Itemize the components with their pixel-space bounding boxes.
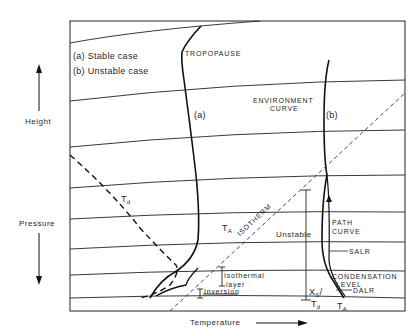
temperature-arrow-right-icon: [298, 320, 308, 326]
plot-frame: [70, 21, 405, 311]
dalr-label: DALR: [353, 287, 375, 294]
temperature-axis-label: Temperature: [190, 319, 240, 327]
environment-curve-b: [322, 60, 344, 298]
pressure-arrow-down-icon: [36, 276, 42, 285]
height-axis-label: Height: [25, 118, 51, 126]
pressure-axis-label: Pressure: [19, 220, 55, 228]
ta-label-a: TA: [222, 224, 232, 234]
unstable-label: Unstable: [276, 231, 312, 239]
tropopause-label: TROPOPAUSE: [185, 50, 241, 57]
environment-curve-a: [150, 26, 201, 298]
height-arrow-up-icon: [36, 64, 42, 73]
dewpoint-curve: [70, 155, 177, 298]
legend-stable: (a) Stable case: [73, 52, 138, 61]
curve-b-label: (b): [326, 111, 338, 120]
ta-bottom-label: TA: [337, 302, 347, 312]
salr-label: SALR: [349, 248, 371, 255]
isobar-lines: [70, 21, 405, 298]
environment-curve-label-1: ENVIRONMENT: [253, 97, 314, 104]
curve-a-label: (a): [194, 111, 206, 120]
dewpoint-label: Td: [121, 195, 130, 205]
inversion-label: Inversion: [204, 288, 240, 295]
isothermal-label-2: layer: [226, 281, 245, 288]
td-bottom-label: Td: [311, 300, 320, 310]
legend-unstable: (b) Unstable case: [73, 67, 149, 76]
path-curve-label-2: CURVE: [332, 228, 360, 235]
isothermal-label-1: Isothermal: [224, 272, 265, 279]
path-curve-label-1: PATH: [332, 219, 353, 226]
condensation-label-1: CONDENSATION: [332, 273, 397, 280]
xs-label: XS/: [309, 288, 322, 298]
unstable-range-bracket: [301, 190, 311, 300]
path-curve-arrow-icon: [326, 195, 332, 202]
environment-curve-label-2: CURVE: [270, 105, 298, 112]
